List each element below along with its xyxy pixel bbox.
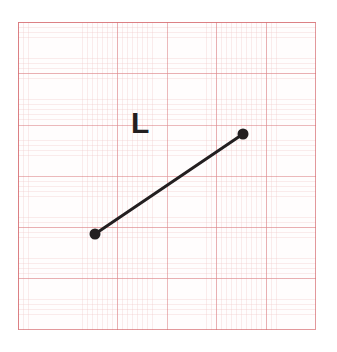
segment-label-L: L — [131, 108, 149, 138]
figure-root: L — [0, 0, 337, 352]
graph-paper-panel — [18, 22, 316, 330]
grid-border — [18, 22, 316, 330]
